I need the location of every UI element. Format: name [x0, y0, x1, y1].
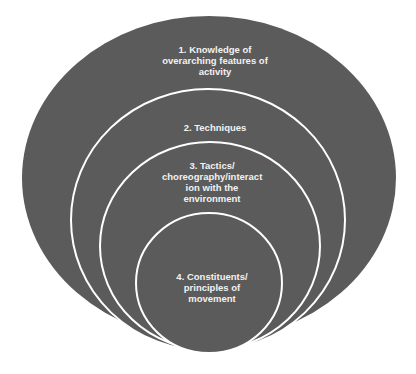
level-1-label: 1. Knowledge of overarching features of …: [160, 44, 270, 77]
level-2-label: 2. Techniques: [160, 122, 270, 133]
level-3-label: 3. Tactics/ choreography/interact ion wi…: [162, 160, 262, 204]
level-4-label: 4. Constituents/ principles of movement: [170, 271, 254, 304]
